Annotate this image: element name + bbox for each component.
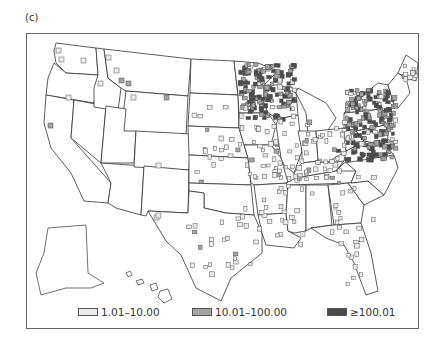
county-low xyxy=(225,145,229,150)
county-mid xyxy=(307,120,311,125)
county-low xyxy=(294,174,298,178)
county-mid xyxy=(241,105,245,109)
county-high xyxy=(374,103,378,108)
county-mid xyxy=(246,89,250,92)
county-low xyxy=(313,138,318,142)
county-low xyxy=(230,137,235,141)
county-low xyxy=(263,154,268,157)
county-high xyxy=(257,74,261,79)
legend-label-high: ≥100.01 xyxy=(350,306,396,318)
county-low xyxy=(245,163,248,168)
county-low xyxy=(339,216,342,220)
county-low xyxy=(336,157,339,161)
county-low xyxy=(265,130,269,134)
county-high xyxy=(356,134,361,137)
county-low xyxy=(273,173,277,178)
county-low xyxy=(337,210,341,214)
county-mid xyxy=(264,93,267,98)
county-high xyxy=(389,113,392,118)
county-low xyxy=(258,144,263,148)
county-mid xyxy=(250,158,255,162)
county-low xyxy=(288,177,291,182)
county-low xyxy=(390,138,394,141)
county-mid xyxy=(305,138,308,143)
county-low xyxy=(293,220,296,224)
county-low xyxy=(249,263,252,266)
county-mid xyxy=(126,81,131,86)
county-low xyxy=(355,244,360,248)
county-low xyxy=(240,113,243,118)
county-high xyxy=(289,72,293,76)
county-high xyxy=(248,109,252,113)
county-low xyxy=(238,223,243,227)
county-low xyxy=(204,265,208,268)
county-mid xyxy=(378,132,382,137)
county-mid xyxy=(346,102,349,106)
county-low xyxy=(244,224,248,229)
county-low xyxy=(233,257,236,261)
county-low xyxy=(353,264,357,269)
county-low xyxy=(212,163,215,168)
state-south-dakota xyxy=(188,93,239,128)
county-high xyxy=(347,157,351,161)
inset-hawaii-island xyxy=(150,283,158,291)
county-high xyxy=(382,139,386,142)
county-high xyxy=(291,63,295,67)
county-mid xyxy=(265,86,270,91)
county-mid xyxy=(358,119,362,123)
county-mid xyxy=(271,82,274,86)
county-mid xyxy=(271,65,274,69)
county-high xyxy=(383,152,388,156)
county-high xyxy=(292,78,297,82)
county-high xyxy=(292,97,296,102)
county-low xyxy=(307,133,310,136)
county-high xyxy=(391,132,394,135)
county-low xyxy=(283,220,288,225)
county-high xyxy=(387,145,390,150)
county-high xyxy=(267,75,272,78)
county-low xyxy=(284,165,287,169)
county-low xyxy=(114,68,119,73)
county-mid xyxy=(350,130,354,134)
county-mid xyxy=(384,123,388,127)
county-low xyxy=(367,130,370,135)
panel-label: (c) xyxy=(25,12,38,23)
county-low xyxy=(190,263,194,268)
county-low xyxy=(290,215,295,219)
county-mid xyxy=(360,92,363,96)
county-low xyxy=(239,142,242,146)
county-high xyxy=(336,149,341,152)
county-low xyxy=(304,170,307,174)
county-low xyxy=(347,253,351,257)
county-mid xyxy=(394,103,398,108)
county-low xyxy=(267,164,271,167)
county-mid xyxy=(287,100,292,104)
county-low xyxy=(342,129,346,132)
county-mid xyxy=(364,100,367,103)
county-low xyxy=(343,143,346,147)
legend-item-mid: 10.01–100.00 xyxy=(192,306,287,318)
county-high xyxy=(362,131,366,134)
county-mid xyxy=(349,97,354,101)
county-low xyxy=(372,175,377,179)
county-high xyxy=(259,107,264,111)
county-low xyxy=(403,72,408,76)
county-mid xyxy=(368,114,371,118)
county-low xyxy=(316,161,321,165)
county-low xyxy=(209,241,213,246)
county-low xyxy=(357,176,361,179)
state-colorado xyxy=(134,131,191,170)
county-high xyxy=(346,141,349,145)
county-mid xyxy=(367,88,371,92)
county-high xyxy=(238,80,243,85)
county-low xyxy=(328,168,333,172)
county-low xyxy=(274,140,278,145)
county-low xyxy=(344,230,349,234)
county-low xyxy=(272,157,276,162)
county-high xyxy=(261,97,265,100)
county-low xyxy=(254,240,259,244)
county-high xyxy=(266,98,271,102)
county-low xyxy=(411,71,415,76)
county-low xyxy=(277,169,281,173)
county-mid xyxy=(276,69,280,74)
